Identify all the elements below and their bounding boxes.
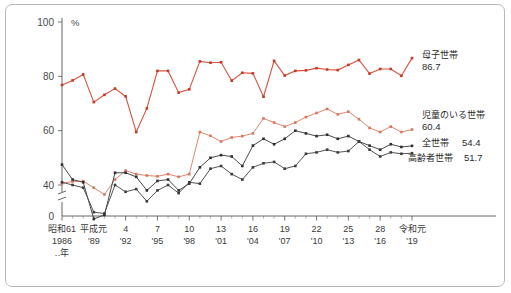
data-point (315, 112, 318, 115)
data-point (326, 108, 329, 111)
data-point (252, 166, 255, 169)
data-point (283, 167, 286, 170)
data-point (199, 131, 202, 134)
data-point (220, 154, 223, 157)
series-line (62, 58, 412, 132)
x-axis-era-label: 19 (280, 224, 290, 234)
data-point (103, 94, 106, 97)
chart-screenshot: 1008060400%昭和611986平成元'894'927'9510'9813… (0, 0, 511, 293)
data-point (368, 148, 371, 151)
data-point (188, 181, 191, 184)
x-axis-era-label: 4 (123, 224, 128, 234)
data-point (124, 190, 127, 193)
data-point (103, 212, 106, 215)
data-point (156, 189, 159, 192)
data-point (230, 173, 233, 176)
y-tick-label: 60 (43, 125, 55, 136)
data-point (400, 131, 403, 134)
data-point (177, 176, 180, 179)
data-point (156, 180, 159, 183)
x-axis-era-label: 令和元 (399, 223, 426, 234)
data-point (146, 107, 149, 110)
data-point (379, 148, 382, 151)
x-axis-era-label: 28 (375, 224, 385, 234)
data-point (103, 193, 106, 196)
data-point (273, 161, 276, 164)
y-tick-label: 40 (43, 180, 55, 191)
data-point (347, 150, 350, 153)
series-value-jidou: 60.4 (422, 121, 441, 132)
data-point (146, 174, 149, 177)
data-point (156, 70, 159, 73)
data-point (389, 143, 392, 146)
data-point (209, 157, 212, 160)
data-point (347, 135, 350, 138)
data-point (93, 186, 96, 189)
x-axis-era-label: 16 (248, 224, 258, 234)
series-value-boshi: 86.7 (422, 61, 441, 72)
data-point (71, 178, 74, 181)
data-point (199, 182, 202, 185)
data-point (262, 138, 265, 141)
data-point (358, 118, 361, 121)
data-point (336, 113, 339, 116)
data-point (358, 140, 361, 143)
data-point (93, 101, 96, 104)
data-point (347, 110, 350, 113)
data-point (315, 67, 318, 70)
data-point (336, 69, 339, 72)
data-point (252, 144, 255, 147)
data-point (82, 73, 85, 76)
y-axis-break-icon (58, 191, 66, 200)
data-point (209, 167, 212, 170)
data-point (230, 79, 233, 82)
data-point (93, 218, 96, 221)
x-axis-year-label: '10 (311, 236, 323, 246)
data-point (389, 151, 392, 154)
data-point (368, 144, 371, 147)
series-label-jidou: 児童のいる世帯 (422, 109, 485, 120)
data-point (368, 72, 371, 75)
data-point (294, 129, 297, 132)
data-point (114, 184, 117, 187)
data-point (326, 133, 329, 136)
line-chart: 1008060400%昭和611986平成元'894'927'9510'9813… (0, 0, 511, 293)
data-point (305, 152, 308, 155)
series-2 (61, 108, 414, 196)
data-point (188, 88, 191, 91)
data-point (368, 127, 371, 130)
series-line (62, 109, 412, 195)
x-axis-year-label: '89 (88, 236, 100, 246)
x-axis-era-label: 昭和61 (48, 224, 76, 234)
data-point (241, 178, 244, 181)
data-point (411, 128, 414, 131)
data-point (252, 72, 255, 75)
data-point (146, 189, 149, 192)
data-point (124, 171, 127, 174)
y-tick-label: 80 (43, 71, 55, 82)
data-point (241, 135, 244, 138)
data-point (188, 173, 191, 176)
series-value-zen: 54.4 (462, 137, 481, 148)
data-point (61, 181, 64, 184)
data-point (230, 155, 233, 158)
x-axis-year-label: 1986 (52, 236, 72, 246)
data-point (283, 74, 286, 77)
data-point (230, 136, 233, 139)
data-point (82, 186, 85, 189)
data-point (379, 68, 382, 71)
y-tick-label-zero: 0 (48, 211, 54, 222)
series-label-zen: 全世帯 (422, 137, 449, 148)
x-axis-era-label: 13 (216, 224, 226, 234)
data-point (177, 192, 180, 195)
data-point (167, 178, 170, 181)
data-point (305, 116, 308, 119)
data-point (177, 189, 180, 192)
x-axis-year-label: '01 (215, 236, 227, 246)
data-point (347, 64, 350, 67)
x-axis-year-label: '98 (183, 236, 195, 246)
x-axis-era-label: 7 (155, 224, 160, 234)
x-axis-year-label: '04 (247, 236, 259, 246)
data-point (146, 200, 149, 203)
data-point (294, 121, 297, 124)
